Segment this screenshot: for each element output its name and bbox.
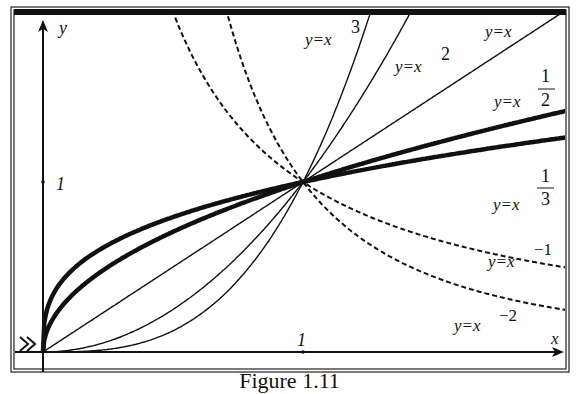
svg-text:3: 3 bbox=[351, 17, 360, 37]
chevron-icon bbox=[20, 337, 28, 351]
label-x-inv: y=x −1 bbox=[486, 240, 552, 271]
svg-text:y=x: y=x bbox=[492, 92, 521, 111]
svg-text:y=x: y=x bbox=[303, 30, 332, 49]
label-x-third: y=x 1 3 bbox=[491, 166, 554, 214]
svg-text:−2: −2 bbox=[499, 306, 517, 325]
svg-text:3: 3 bbox=[541, 189, 550, 209]
svg-text:1: 1 bbox=[541, 166, 550, 186]
curves-group bbox=[43, 0, 576, 352]
svg-text:y=x: y=x bbox=[483, 22, 512, 41]
x-tick-dot bbox=[301, 350, 305, 354]
y-axis-label: y bbox=[57, 18, 67, 38]
top-bar bbox=[14, 9, 566, 15]
label-x2: y=x 2 bbox=[393, 44, 450, 76]
y-tick-label: 1 bbox=[56, 174, 65, 194]
curve-0 bbox=[43, 0, 417, 352]
svg-text:y=x: y=x bbox=[486, 252, 515, 271]
label-x-half: y=x 1 2 bbox=[492, 66, 555, 111]
svg-text:1: 1 bbox=[541, 66, 550, 86]
curve-1 bbox=[43, 0, 492, 352]
svg-text:y=x: y=x bbox=[393, 57, 422, 76]
y-tick-dot bbox=[41, 180, 45, 184]
svg-text:2: 2 bbox=[441, 44, 450, 64]
label-x3: y=x 3 bbox=[303, 17, 360, 49]
outer-frame bbox=[11, 7, 569, 372]
svg-text:y=x: y=x bbox=[491, 195, 520, 214]
figure-caption: Figure 1.11 bbox=[0, 368, 579, 394]
svg-text:y=x: y=x bbox=[452, 316, 481, 335]
x-axis-label: x bbox=[550, 329, 559, 348]
label-x-inv2: y=x −2 bbox=[452, 306, 517, 335]
curve-3 bbox=[43, 109, 576, 352]
label-x: y=x bbox=[483, 22, 512, 41]
x-tick-label: 1 bbox=[297, 330, 306, 350]
svg-text:−1: −1 bbox=[534, 240, 552, 259]
svg-text:2: 2 bbox=[541, 90, 550, 110]
